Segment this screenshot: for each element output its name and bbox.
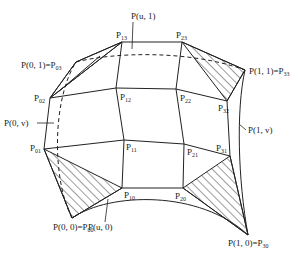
- label-corner-10: P(1, 0)=P30: [228, 238, 269, 249]
- label-boundary-u0: P(u, 0): [88, 222, 113, 232]
- label-p20: P20: [175, 191, 186, 202]
- label-p23: P23: [176, 30, 187, 41]
- net-col-u1: [116, 42, 124, 188]
- net-row-v1: [44, 140, 230, 156]
- leader-1v: [239, 124, 246, 130]
- hatched-triangle-corner-00: [44, 149, 122, 218]
- label-corner-01: P(0, 1)=P03: [21, 60, 62, 71]
- net-col-u2: [176, 42, 184, 188]
- label-p10: P10: [124, 190, 135, 201]
- label-boundary-u1: P(u, 1): [131, 11, 156, 21]
- leader-u0: [105, 199, 108, 222]
- label-p31: P31: [216, 143, 227, 154]
- label-p22: P22: [180, 93, 191, 104]
- bezier-surface-diagram: P13 P23 P12 P22 P32 P11 P21 P31 P10 P20 …: [0, 0, 298, 254]
- label-p13: P13: [116, 30, 127, 41]
- label-p02: P02: [34, 93, 45, 104]
- label-p11: P11: [126, 142, 137, 153]
- label-corner-11: P(1, 1)=P33: [249, 66, 290, 77]
- label-boundary-0v: P(0, v): [4, 118, 29, 128]
- diagram-canvas: P13 P23 P12 P22 P32 P11 P21 P31 P10 P20 …: [0, 0, 298, 254]
- label-p21: P21: [187, 147, 198, 158]
- label-p12: P12: [120, 92, 131, 103]
- label-boundary-1v: P(1, v): [248, 125, 273, 135]
- net-row-v2: [50, 88, 227, 101]
- leader-u1: [132, 22, 133, 49]
- label-p01: P01: [30, 143, 41, 154]
